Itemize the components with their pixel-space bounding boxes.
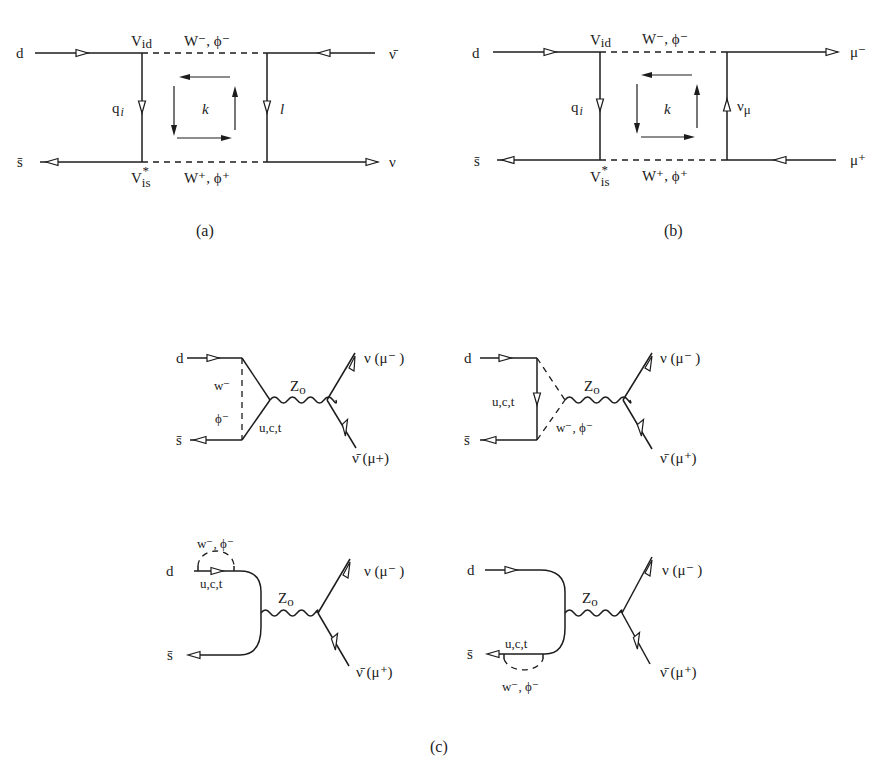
arrow-left-icon xyxy=(194,437,206,444)
arrow-up-left-icon xyxy=(342,419,351,436)
label-d: d xyxy=(472,45,480,61)
label-out-bottom: ν̄ (μ⁺) xyxy=(660,664,697,681)
label-z-boson: Zo xyxy=(584,378,600,397)
label-k: k xyxy=(202,101,209,117)
label-out-top: ν (μ⁻ ) xyxy=(662,562,702,579)
label-quarks: u,c,t xyxy=(492,394,515,409)
label-l: l xyxy=(280,101,284,117)
arrow-right-icon xyxy=(544,49,556,56)
label-k: k xyxy=(664,101,671,117)
arrow-left-icon xyxy=(484,437,496,444)
label-w-phi: w⁻, ϕ⁻ xyxy=(556,420,593,435)
z-boson-propagator xyxy=(565,610,622,616)
arrow-right-icon xyxy=(76,50,88,57)
neutrino-line xyxy=(318,559,350,613)
caption-b: (b) xyxy=(664,222,683,240)
label-vis: Vis* xyxy=(590,162,610,189)
label-out-bottom: ν̄ (μ⁺) xyxy=(660,450,697,467)
label-vis: Vis* xyxy=(131,163,151,190)
neutrino-line xyxy=(622,557,652,613)
caption-c: (c) xyxy=(430,738,448,756)
label-sbar: s̄ xyxy=(167,647,173,663)
caption-a: (a) xyxy=(196,222,214,240)
label-w-phi: w⁻, ϕ⁻ xyxy=(502,679,539,694)
panel-c-diagram-1-vertex-correction: d s̄ w⁻ ϕ⁻ u,c,t Zo ν (μ⁻ ) ν̄ (μ+) xyxy=(176,350,404,467)
neutrino-line xyxy=(623,353,652,400)
label-w-phi: w⁻, ϕ⁻ xyxy=(197,536,234,551)
label-sbar: s̄ xyxy=(17,154,23,170)
label-out-bottom: ν̄ (μ⁺) xyxy=(356,664,393,681)
arrow-left-icon xyxy=(188,652,200,659)
label-out-top: ν (μ⁻ ) xyxy=(660,350,700,367)
arrow-down-icon xyxy=(264,101,271,113)
w-phi-propagator xyxy=(537,358,565,400)
label-nu-mu: νμ xyxy=(737,98,751,117)
label-w-plus-phi-plus: W⁺, ϕ⁺ xyxy=(642,168,688,184)
label-d: d xyxy=(166,563,174,579)
arrow-left-icon xyxy=(502,157,514,164)
arrow-right-icon xyxy=(366,159,378,166)
w-phi-loop xyxy=(504,659,543,670)
arrow-right-icon xyxy=(499,355,511,362)
label-nubar: ν̄ xyxy=(389,46,399,62)
arrow-left-icon xyxy=(774,157,786,164)
label-w-plus-phi-plus: W⁺, ϕ⁺ xyxy=(184,170,230,186)
label-nu: ν xyxy=(389,154,396,170)
label-w-minus-phi-minus: W⁻, ϕ⁻ xyxy=(642,31,688,47)
label-mu-plus: μ⁺ xyxy=(850,152,866,168)
arrow-right-icon xyxy=(505,567,517,574)
antineutrino-line xyxy=(327,400,356,448)
panel-a-box-diagram: d s̄ Vid Vis* W⁻, ϕ⁻ W⁺, ϕ⁺ qi k l ν̄ ν … xyxy=(16,33,399,240)
arrow-left-icon xyxy=(318,50,330,57)
feynman-diagrams-figure: d s̄ Vid Vis* W⁻, ϕ⁻ W⁺, ϕ⁺ qi k l ν̄ ν … xyxy=(0,0,885,772)
label-out-top: ν (μ⁻ ) xyxy=(364,350,404,367)
label-sbar: s̄ xyxy=(176,432,182,448)
label-vid: Vid xyxy=(590,32,611,50)
panel-c-diagram-4-self-energy: d s̄ u,c,t w⁻, ϕ⁻ Zo ν (μ⁻ ) ν̄ (μ⁺) xyxy=(467,557,702,694)
label-quarks: u,c,t xyxy=(505,636,528,651)
arrow-up-icon xyxy=(724,99,731,111)
label-phi-minus: ϕ⁻ xyxy=(215,411,229,426)
arrow-down-icon xyxy=(139,101,146,113)
label-out-top: ν (μ⁻ ) xyxy=(364,563,404,580)
arrow-left-icon xyxy=(46,159,58,166)
z-boson-propagator xyxy=(270,397,336,403)
label-vid: Vid xyxy=(131,33,152,51)
label-mu-minus: μ⁻ xyxy=(850,44,866,60)
neutrino-line xyxy=(327,353,355,400)
arrow-down-icon xyxy=(534,393,541,405)
label-z-boson: Zo xyxy=(278,590,294,609)
label-w-minus: w⁻ xyxy=(214,378,230,393)
label-d: d xyxy=(176,350,184,366)
label-d: d xyxy=(467,562,475,578)
label-out-bottom: ν̄ (μ+) xyxy=(352,450,389,467)
label-w-minus-phi-minus: W⁻, ϕ⁻ xyxy=(184,33,230,49)
arrow-right-icon xyxy=(211,568,223,575)
label-z-boson: Zo xyxy=(582,590,598,609)
internal-quark-line xyxy=(242,358,270,400)
arrow-right-icon xyxy=(207,355,219,362)
label-q-i: qi xyxy=(112,100,124,119)
z-boson-propagator xyxy=(261,610,318,616)
arrow-left-icon xyxy=(487,651,499,658)
label-sbar: s̄ xyxy=(467,646,473,662)
label-d: d xyxy=(464,350,472,366)
arrow-down-icon xyxy=(597,99,604,111)
panel-c-diagram-3-self-energy: d s̄ w⁻, ϕ⁻ u,c,t Zo ν (μ⁻ ) ν̄ (μ⁺) xyxy=(166,536,404,681)
arrow-up-left-icon xyxy=(637,419,647,436)
label-q-i: qi xyxy=(571,99,583,118)
w-phi-loop xyxy=(198,551,234,566)
z-boson-propagator xyxy=(565,397,631,403)
label-z-boson: Zo xyxy=(290,378,306,397)
label-quarks: u,c,t xyxy=(200,576,223,591)
arrow-right-icon xyxy=(826,49,838,56)
label-sbar: s̄ xyxy=(464,432,470,448)
label-quarks: u,c,t xyxy=(259,420,282,435)
label-d: d xyxy=(16,45,24,61)
label-sbar: s̄ xyxy=(474,153,480,169)
panel-b-box-diagram: d s̄ Vid Vis* W⁻, ϕ⁻ W⁺, ϕ⁺ qi k νμ μ⁻ μ… xyxy=(472,31,866,240)
panel-c-diagram-2-vertex-correction: d s̄ u,c,t w⁻, ϕ⁻ Zo ν (μ⁻ ) ν̄ (μ⁺) xyxy=(464,350,700,467)
